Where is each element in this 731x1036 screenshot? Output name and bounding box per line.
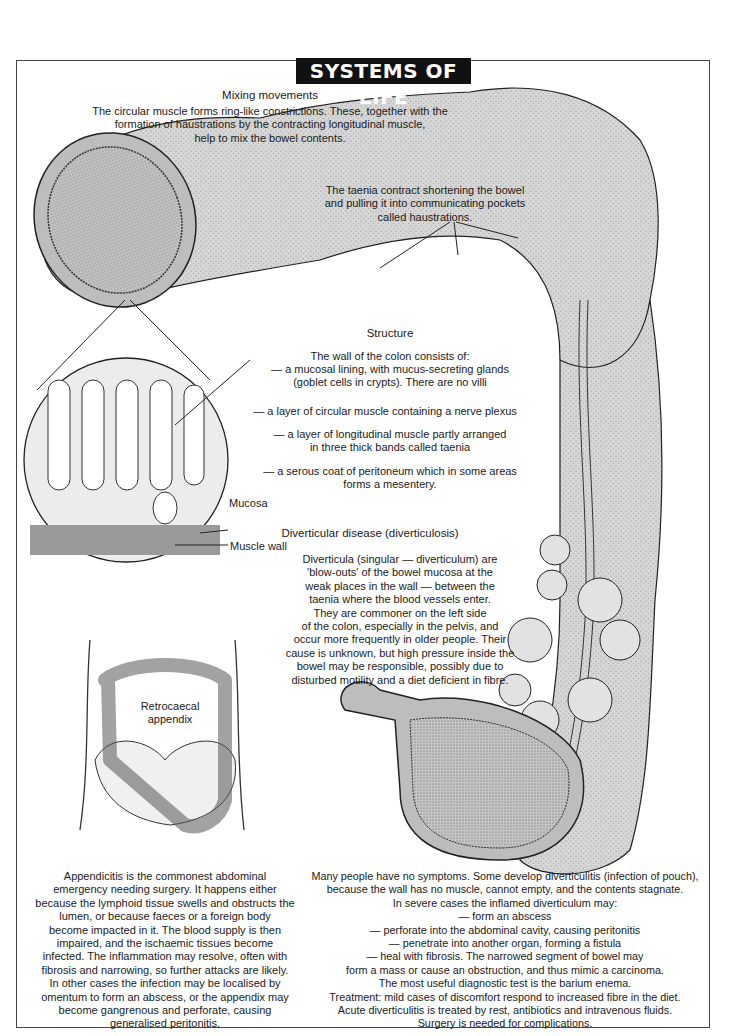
diverticular-text: Diverticula (singular — diverticulum) ar… bbox=[270, 553, 530, 687]
appendicitis-text: Appendicitis is the commonest abdominal … bbox=[20, 870, 310, 1031]
mixing-heading: Mixing movements bbox=[120, 89, 420, 101]
retrocaecal-appendix-label: Retrocaecal appendix bbox=[120, 700, 220, 727]
mucosa-label: Mucosa bbox=[229, 497, 268, 509]
structure-item-serous: — a serous coat of peritoneum which in s… bbox=[240, 465, 540, 492]
diverticulitis-text: Many people have no symptoms. Some devel… bbox=[290, 870, 720, 1031]
diverticular-heading: Diverticular disease (diverticulosis) bbox=[280, 527, 460, 539]
banner-title: SYSTEMS OF LIFE bbox=[296, 58, 471, 84]
abdomen-figure bbox=[80, 640, 244, 830]
mixing-text: The circular muscle forms ring-like cons… bbox=[20, 105, 520, 145]
structure-item-circular: — a layer of circular muscle containing … bbox=[235, 405, 535, 418]
structure-heading: Structure bbox=[320, 327, 460, 339]
structure-item-longitudinal: — a layer of longitudinal muscle partly … bbox=[250, 428, 530, 455]
structure-item-mucosal: — a mucosal lining, with mucus-secreting… bbox=[250, 363, 530, 390]
taenia-text: The taenia contract shortening the bowel… bbox=[300, 184, 550, 224]
muscle-wall-label: Muscle wall bbox=[230, 540, 287, 552]
structure-intro: The wall of the colon consists of: bbox=[250, 350, 530, 363]
